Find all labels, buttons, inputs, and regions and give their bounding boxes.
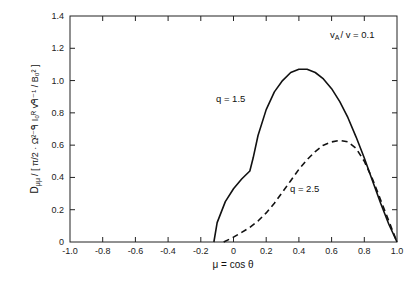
y-axis: 00.20.40.60.81.01.21.4 bbox=[51, 11, 397, 247]
series-label-q15: q = 1.5 bbox=[216, 93, 245, 104]
plot-frame bbox=[70, 16, 397, 242]
x-tick-label: -0.6 bbox=[128, 246, 144, 256]
x-tick-label: 0 bbox=[231, 246, 236, 256]
x-tick-label: 1.0 bbox=[391, 246, 404, 256]
series-label-q25: q = 2.5 bbox=[290, 183, 319, 194]
y-tick-label: 1.0 bbox=[51, 76, 64, 86]
y-tick-label: 0.2 bbox=[51, 205, 64, 215]
y-tick-label: 0.6 bbox=[51, 140, 64, 150]
svg-text:Dμμ/ [ π/2 · Ω²⁻ᑫ I₀ᴿ vᑫ⁻¹ / B: Dμμ/ [ π/2 · Ω²⁻ᑫ I₀ᴿ vᑫ⁻¹ / B₀² ] bbox=[29, 65, 42, 194]
x-tick-label: -0.4 bbox=[160, 246, 176, 256]
x-tick-label: -0.2 bbox=[193, 246, 209, 256]
x-axis-label: μ = cos θ bbox=[212, 259, 253, 270]
x-axis: -1.0-0.8-0.6-0.4-0.200.20.40.60.81.0 bbox=[62, 16, 403, 256]
y-tick-label: 0.4 bbox=[51, 172, 64, 182]
chart: -1.0-0.8-0.6-0.4-0.200.20.40.60.81.0 00.… bbox=[0, 0, 407, 289]
x-tick-label: 0.6 bbox=[325, 246, 338, 256]
y-tick-label: 1.2 bbox=[51, 43, 64, 53]
param-annotation: vA/ v = 0.1 bbox=[330, 29, 374, 41]
x-tick-label: -0.8 bbox=[95, 246, 111, 256]
y-tick-label: 1.4 bbox=[51, 11, 64, 21]
y-tick-label: 0 bbox=[59, 237, 64, 247]
y-tick-label: 0.8 bbox=[51, 108, 64, 118]
y-axis-label: Dμμ/ [ π/2 · Ω²⁻ᑫ I₀ᴿ vᑫ⁻¹ / B₀² ] bbox=[29, 65, 42, 194]
x-tick-label: 0.4 bbox=[293, 246, 306, 256]
x-tick-label: 0.2 bbox=[260, 246, 273, 256]
x-tick-label: 0.8 bbox=[358, 246, 371, 256]
x-tick-label: -1.0 bbox=[62, 246, 78, 256]
